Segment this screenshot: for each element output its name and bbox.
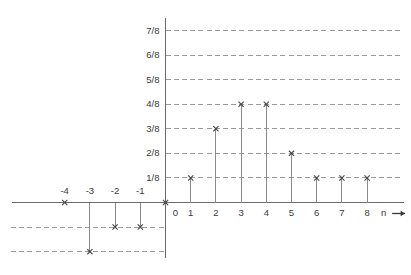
x-tick-label-neg3: -3 bbox=[82, 186, 98, 196]
y-tick-label-2-8: 2/8 bbox=[146, 148, 159, 158]
x-axis-arrow-head bbox=[401, 211, 406, 217]
x-tick-label-3: 3 bbox=[233, 208, 249, 218]
x-tick-label-7: 7 bbox=[334, 208, 350, 218]
y-tick-label-1-8: 1/8 bbox=[146, 173, 159, 183]
y-tick-label-5-8: 5/8 bbox=[146, 75, 159, 85]
x-tick-label-neg2: -2 bbox=[107, 186, 123, 196]
x-tick-label-6: 6 bbox=[309, 208, 325, 218]
x-tick-label-neg1: -1 bbox=[132, 186, 148, 196]
y-tick-label-7-8: 7/8 bbox=[146, 26, 159, 36]
x-tick-label-8: 8 bbox=[359, 208, 375, 218]
x-tick-label-4: 4 bbox=[258, 208, 274, 218]
x-tick-label-5: 5 bbox=[284, 208, 300, 218]
y-tick-label-4-8: 4/8 bbox=[146, 99, 159, 109]
x-tick-label-neg4: -4 bbox=[57, 186, 73, 196]
plot-canvas bbox=[0, 0, 411, 275]
x-tick-label-1: 1 bbox=[183, 208, 199, 218]
y-tick-label-3-8: 3/8 bbox=[146, 124, 159, 134]
y-tick-label-6-8: 6/8 bbox=[146, 50, 159, 60]
stem-plot-figure: 1/82/83/84/85/86/87/8-4-3-2-1012345678n bbox=[0, 0, 411, 275]
x-tick-label-0: 0 bbox=[168, 208, 184, 218]
x-axis-name: n bbox=[381, 208, 386, 218]
x-tick-label-2: 2 bbox=[208, 208, 224, 218]
